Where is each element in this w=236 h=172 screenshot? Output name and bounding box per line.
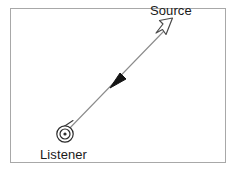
listener-label: Listener (40, 148, 87, 162)
figure-border (11, 9, 226, 163)
listener-symbol-icon (57, 126, 73, 142)
acoustics-diagram: Source Listener (0, 0, 236, 172)
source-label: Source (150, 4, 192, 18)
diagram-canvas (0, 0, 236, 172)
